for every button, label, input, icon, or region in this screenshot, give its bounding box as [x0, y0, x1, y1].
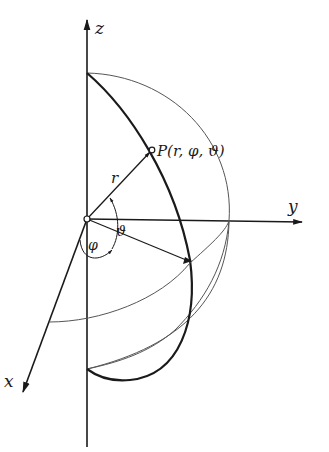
radius-vector — [87, 152, 150, 219]
point-label: P(r, φ, ϑ) — [156, 142, 225, 160]
y-axis-label: y — [287, 196, 298, 216]
spherical-coordinates-figure: z y x r P(r, φ, ϑ) ϑ φ — [0, 0, 329, 452]
equator-arc — [49, 221, 229, 322]
x-axis-label: x — [4, 371, 14, 391]
x-axis — [23, 219, 87, 392]
radius-label: r — [111, 169, 119, 187]
inner-thin-meridian — [87, 221, 229, 369]
y-axis — [87, 219, 302, 222]
z-axis-label: z — [94, 18, 105, 38]
theta-label: ϑ — [116, 223, 126, 239]
projection-line — [87, 219, 191, 262]
meridian-through-p — [87, 73, 192, 380]
point-p — [149, 147, 155, 153]
phi-label: φ — [88, 237, 98, 253]
origin-point — [84, 216, 90, 222]
